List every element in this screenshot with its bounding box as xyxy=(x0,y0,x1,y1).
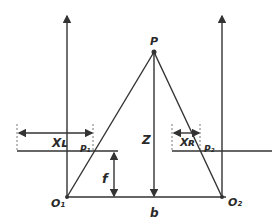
point-label: P xyxy=(150,35,158,48)
left-proj-label: P₁ xyxy=(80,144,91,154)
focal-label: f xyxy=(102,171,110,186)
baseline-label: b xyxy=(150,206,159,220)
left-disp-label: Xʟ xyxy=(51,136,68,150)
depth-label: Z xyxy=(141,133,151,147)
ray-left xyxy=(67,52,154,197)
stereo-diagram: P Z f b O₁ O₂ P₁ P₂ Xʟ Xʀ xyxy=(0,0,280,220)
right-origin-label: O₂ xyxy=(228,196,242,209)
ray-right xyxy=(154,52,222,197)
right-disp-label: Xʀ xyxy=(179,136,196,149)
right-proj-label: P₂ xyxy=(204,144,215,154)
left-origin-label: O₁ xyxy=(51,197,65,210)
